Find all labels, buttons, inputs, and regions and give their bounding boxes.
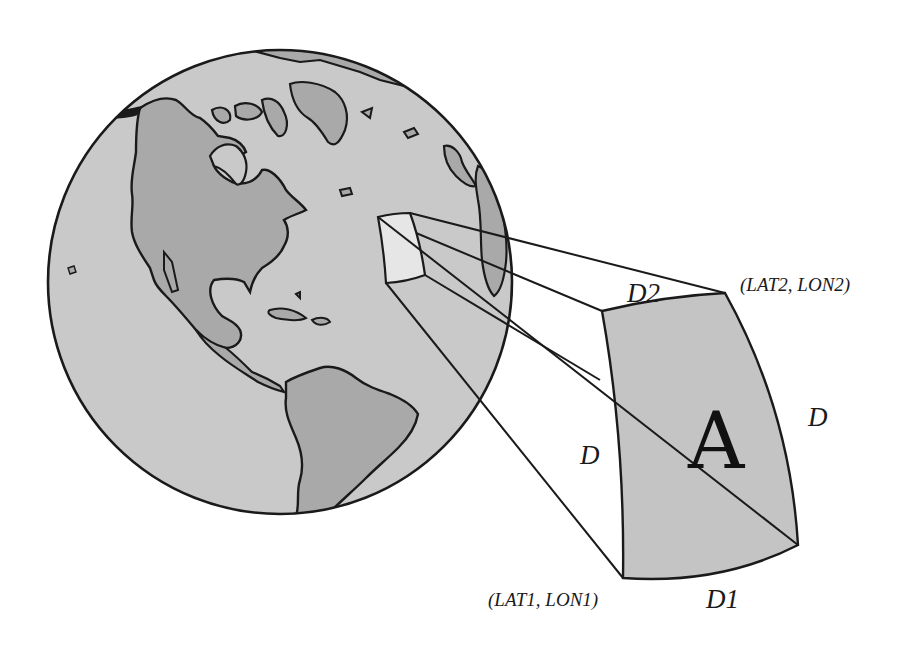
- area-label: A: [687, 396, 746, 486]
- corner-label-top-right: (LAT2, LON2): [740, 274, 850, 296]
- globe-cell-diagram: (LAT2, LON2) (LAT1, LON1) D2 D1 D D A: [0, 0, 905, 649]
- newfoundland: [340, 188, 352, 196]
- edge-label-bottom: D1: [705, 584, 739, 614]
- edge-label-top: D2: [626, 278, 660, 308]
- globe: [48, 40, 520, 526]
- corner-label-bottom-left: (LAT1, LON1): [488, 589, 598, 611]
- hispaniola: [312, 318, 330, 325]
- edge-label-right: D: [807, 402, 828, 432]
- pacific-islet: [68, 266, 76, 274]
- edge-label-left: D: [579, 440, 600, 470]
